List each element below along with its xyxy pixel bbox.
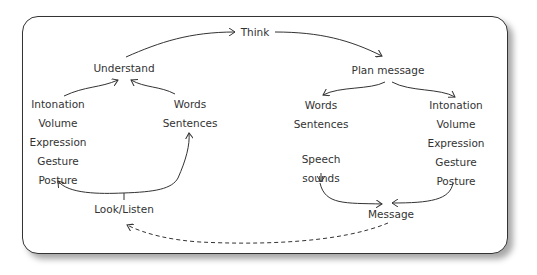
sender-speech: Speech	[302, 150, 341, 169]
sender-sentences: Sentences	[294, 115, 349, 134]
receiver-expression: Expression	[30, 133, 87, 152]
arrow-look-sentences	[123, 133, 189, 193]
sender-speech-list: Speech sounds	[302, 150, 341, 188]
receiver-gesture: Gesture	[30, 152, 87, 171]
receiver-sentences: Sentences	[163, 114, 218, 133]
node-look-listen: Look/Listen	[94, 203, 154, 216]
receiver-volume: Volume	[30, 114, 87, 133]
receiver-nonverbal-list: Intonation Volume Expression Gesture Pos…	[30, 95, 87, 190]
sender-verbal-list: Words Sentences	[294, 96, 349, 134]
arrow-words-understand	[131, 80, 175, 94]
node-think: Think	[241, 26, 270, 39]
sender-sounds: sounds	[302, 169, 341, 188]
sender-volume: Volume	[428, 115, 485, 134]
sender-intonation: Intonation	[428, 96, 485, 115]
arrow-understand-think	[126, 32, 235, 57]
node-understand: Understand	[93, 62, 154, 75]
receiver-posture: Posture	[30, 171, 87, 190]
receiver-intonation: Intonation	[30, 95, 87, 114]
arrow-plan-words	[323, 82, 385, 95]
node-plan-message: Plan message	[352, 64, 425, 77]
sender-posture: Posture	[428, 172, 485, 191]
arrow-message-look-dashed	[127, 223, 388, 243]
sender-gesture: Gesture	[428, 153, 485, 172]
arrow-plan-intonation	[392, 82, 455, 97]
sender-words: Words	[294, 96, 349, 115]
arrow-think-plan	[275, 32, 382, 56]
arrow-intonation-understand	[64, 80, 118, 96]
sender-expression: Expression	[428, 134, 485, 153]
receiver-verbal-list: Words Sentences	[163, 95, 218, 133]
sender-nonverbal-list: Intonation Volume Expression Gesture Pos…	[428, 96, 485, 191]
receiver-words: Words	[163, 95, 218, 114]
node-message: Message	[368, 208, 414, 221]
